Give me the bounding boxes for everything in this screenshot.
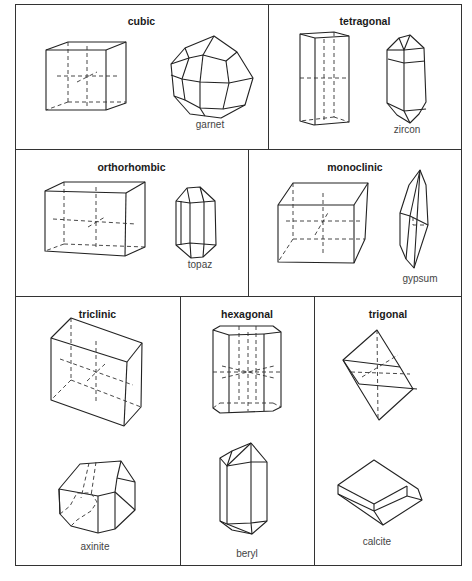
cell-cubic: cubic garnet <box>15 4 268 149</box>
cell-triclinic: triclinic axinite <box>15 296 180 566</box>
cell-trigonal: trigonal calcite <box>314 296 462 566</box>
cell-orthorhombic: orthorhombic topaz <box>15 149 248 296</box>
example-label-garnet: garnet <box>185 119 235 130</box>
example-label-zircon: zircon <box>382 124 432 135</box>
example-label-axinite: axinite <box>70 541 120 552</box>
axinite-crystal <box>15 296 180 566</box>
zircon-crystal <box>268 4 462 149</box>
beryl-crystal <box>180 296 314 566</box>
cell-monoclinic: monoclinic gypsum <box>248 149 462 296</box>
example-label-beryl: beryl <box>222 548 272 559</box>
example-label-calcite: calcite <box>352 536 402 547</box>
cell-tetragonal: tetragonal zircon <box>268 4 462 149</box>
example-label-gypsum: gypsum <box>390 273 450 284</box>
cell-hexagonal: hexagonal beryl <box>180 296 314 566</box>
calcite-crystal <box>314 296 462 566</box>
example-label-topaz: topaz <box>175 259 225 270</box>
topaz-crystal <box>15 149 248 296</box>
